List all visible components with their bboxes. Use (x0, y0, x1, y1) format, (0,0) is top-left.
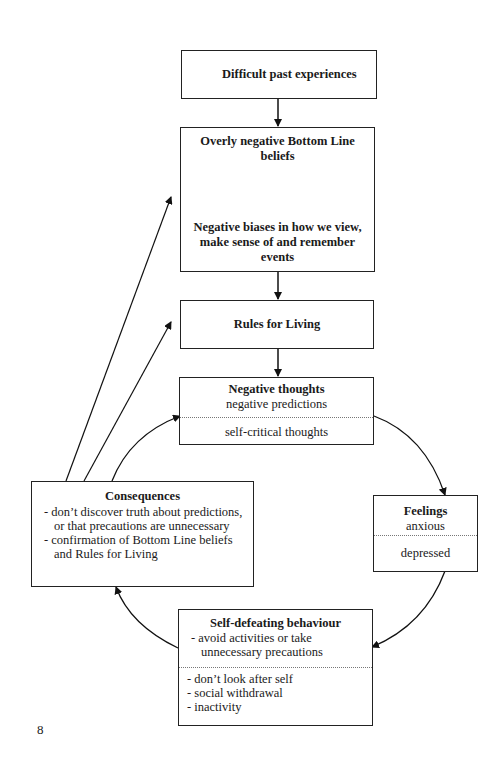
consequences-item: - confirmation of Bottom Line beliefs an… (40, 533, 247, 561)
rules-title: Rules for Living (181, 317, 373, 332)
behaviour-divider (179, 667, 372, 668)
self-defeating-behaviour-box: Self-defeating behaviour - avoid activit… (178, 609, 373, 726)
bottom-line-title: Overly negative Bottom Line beliefs (199, 134, 356, 164)
consequences-title: Consequences (32, 489, 253, 504)
thoughts-line2: self-critical thoughts (180, 425, 373, 439)
thoughts-line1: negative predictions (180, 397, 373, 411)
consequences-box: Consequences - don’t discover truth abou… (31, 481, 254, 587)
past-experiences-title: Difficult past experiences (182, 67, 376, 82)
feelings-divider (374, 535, 477, 536)
behaviour-item: - inactivity (187, 700, 368, 714)
feelings-title: Feelings (374, 504, 477, 519)
feelings-line2: depressed (374, 546, 477, 560)
behaviour-item: - social withdrawal (187, 686, 368, 700)
feelings-line1: anxious (374, 519, 477, 533)
thoughts-title: Negative thoughts (180, 382, 373, 397)
feelings-box: Feelings anxious depressed (373, 495, 478, 572)
behaviour-item: - don’t look after self (187, 672, 368, 686)
consequences-item: - don’t discover truth about predictions… (40, 505, 247, 533)
past-experiences-box: Difficult past experiences (181, 50, 377, 99)
page-number: 8 (37, 722, 44, 738)
rules-for-living-box: Rules for Living (180, 300, 374, 349)
biases-text: Negative biases in how we view, make sen… (189, 220, 366, 265)
behaviour-item: - avoid activities or take unnecessary p… (187, 631, 368, 659)
negative-thoughts-box: Negative thoughts negative predictions s… (179, 377, 374, 445)
behaviour-title: Self-defeating behaviour (179, 616, 372, 631)
thoughts-divider (180, 417, 373, 418)
bottom-line-box: Overly negative Bottom Line beliefs Nega… (180, 127, 375, 272)
